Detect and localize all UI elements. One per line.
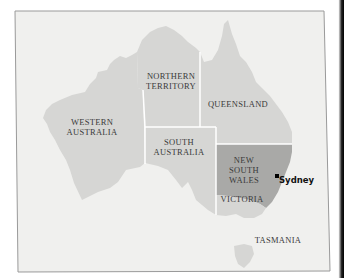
label-victoria: VICTORIA: [216, 194, 268, 204]
label-south-australia: SOUTH AUSTRALIA: [145, 137, 213, 157]
label-new-south-wales: NEW SOUTH WALES: [222, 155, 266, 185]
label-northern-territory: NORTHERN TERRITORY: [136, 71, 206, 91]
city-label-sydney: Sydney: [279, 175, 314, 185]
label-tasmania: TASMANIA: [252, 235, 304, 245]
label-western-australia: WESTERN AUSTRALIA: [52, 117, 132, 137]
label-queensland: QUEENSLAND: [200, 99, 276, 109]
